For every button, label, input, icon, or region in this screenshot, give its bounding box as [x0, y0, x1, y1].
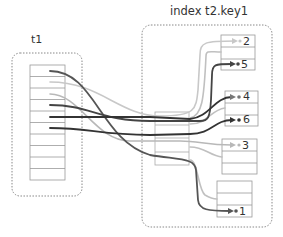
- entry-3: 3: [242, 139, 249, 152]
- diagram-canvas: [0, 0, 283, 237]
- entry-1: 1: [239, 205, 246, 218]
- link-light-branch-c: [190, 147, 222, 157]
- link-row7-to-6: [50, 120, 232, 135]
- entry-4: 4: [243, 90, 250, 103]
- entry-2: 2: [243, 35, 250, 48]
- entry-6: 6: [243, 113, 250, 126]
- entry-5: 5: [241, 58, 248, 71]
- link-light-branch: [190, 52, 221, 118]
